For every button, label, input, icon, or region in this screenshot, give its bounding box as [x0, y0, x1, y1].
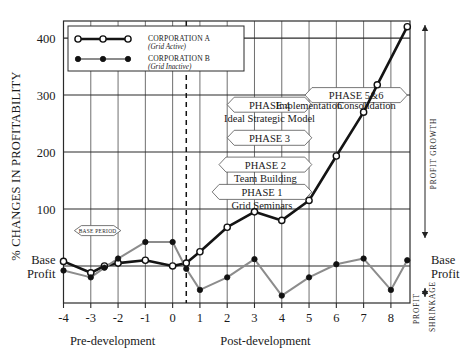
profit-word-label: PROFIT — [412, 293, 421, 324]
data-point-corporation-a — [197, 249, 203, 255]
data-point-corporation-a — [279, 217, 285, 223]
data-point-corporation-b — [279, 293, 284, 298]
y-tick-label: 100 — [37, 203, 56, 217]
phase-2-label: PHASE 2 — [245, 160, 286, 171]
phase-1-label: PHASE 1 — [241, 187, 282, 198]
phase-3-label: PHASE 3 — [249, 133, 290, 144]
legend-marker-corporation-a — [125, 36, 131, 42]
data-point-corporation-b — [88, 275, 93, 280]
shrinkage-word-label: SHRINKAGE — [428, 281, 437, 332]
y-tick-label: 300 — [37, 89, 56, 103]
profit-growth-arrow-head-down — [422, 232, 428, 238]
data-point-corporation-b — [197, 287, 202, 292]
data-point-corporation-a — [224, 224, 230, 230]
data-point-corporation-b — [143, 239, 148, 244]
implementation-label: Implementation — [276, 100, 343, 111]
data-point-corporation-a — [170, 263, 176, 269]
series-line-corporation-b — [64, 242, 408, 296]
legend-sublabel-corporation-a: (Grid Active) — [148, 43, 187, 51]
x-tick-label: 7 — [360, 311, 366, 325]
legend-sublabel-corporation-b: (Grid Inactive) — [148, 63, 192, 71]
x-group-label-post: Post-development — [220, 334, 311, 348]
x-tick-label: -1 — [140, 311, 150, 325]
x-tick-label: 1 — [197, 311, 203, 325]
legend-marker-corporation-b — [100, 56, 105, 61]
x-tick-label: 3 — [251, 311, 257, 325]
legend-label-corporation-b: CORPORATION B — [148, 54, 210, 63]
profitability-chart: BASE PERIODPHASE 1Grid SeminarsPHASE 2Te… — [0, 0, 466, 360]
data-point-corporation-a — [142, 257, 148, 263]
legend-marker-corporation-b — [125, 56, 130, 61]
x-group-label-pre: Pre-development — [70, 334, 156, 348]
x-tick-label: 8 — [388, 311, 394, 325]
data-point-corporation-b — [102, 265, 107, 270]
x-tick-label: 6 — [333, 311, 339, 325]
x-tick-label: -2 — [113, 311, 123, 325]
data-point-corporation-b — [115, 256, 120, 261]
right-base-profit-label: Profit — [431, 267, 460, 281]
phase-2-sublabel: Team Building — [234, 173, 297, 184]
legend-marker-corporation-b — [75, 56, 80, 61]
data-point-corporation-b — [170, 239, 175, 244]
data-point-corporation-a — [333, 153, 339, 159]
data-point-corporation-b — [388, 287, 393, 292]
y-axis-title: % CHANGES IN PROFITABILITY — [9, 71, 23, 260]
profit-growth-arrow-head-up — [422, 25, 428, 31]
y-tick-label: 400 — [37, 32, 56, 46]
base-period-label: BASE PERIOD — [79, 228, 117, 234]
right-base-profit-label: Base — [431, 253, 456, 267]
profit-growth-label: PROFIT GROWTH — [429, 118, 438, 189]
legend-label-corporation-a: CORPORATION A — [148, 34, 210, 43]
data-point-corporation-a — [361, 109, 367, 115]
data-point-corporation-b — [252, 256, 257, 261]
x-tick-label: 4 — [279, 311, 286, 325]
data-point-corporation-a — [183, 260, 189, 266]
x-tick-label: -4 — [58, 311, 69, 325]
data-point-corporation-a — [251, 209, 257, 215]
x-tick-label: -3 — [86, 311, 96, 325]
data-point-corporation-b — [361, 256, 366, 261]
data-point-corporation-b — [306, 275, 311, 280]
data-point-corporation-b — [225, 275, 230, 280]
y-base-profit-label: Base — [31, 253, 56, 267]
phase-4-sublabel: Ideal Strategic Model — [224, 113, 315, 124]
data-point-corporation-a — [306, 197, 312, 203]
legend-marker-corporation-a — [75, 36, 81, 42]
x-tick-label: 0 — [170, 311, 176, 325]
legend-marker-corporation-a — [100, 36, 106, 42]
chart-canvas: BASE PERIODPHASE 1Grid SeminarsPHASE 2Te… — [0, 0, 466, 360]
data-point-corporation-b — [405, 258, 410, 263]
x-tick-label: 5 — [306, 311, 312, 325]
data-point-corporation-b — [184, 266, 189, 271]
y-base-profit-label: Profit — [27, 267, 56, 281]
y-tick-label: 200 — [37, 146, 56, 160]
data-point-corporation-b — [61, 268, 66, 273]
x-tick-label: 2 — [224, 311, 230, 325]
phase-1-sublabel: Grid Seminars — [232, 200, 293, 211]
data-point-corporation-a — [374, 82, 380, 88]
annotation-layer: BASE PERIODPHASE 1Grid SeminarsPHASE 2Te… — [74, 88, 407, 236]
data-point-corporation-a — [404, 24, 410, 30]
data-point-corporation-a — [60, 258, 66, 264]
data-point-corporation-b — [334, 262, 339, 267]
